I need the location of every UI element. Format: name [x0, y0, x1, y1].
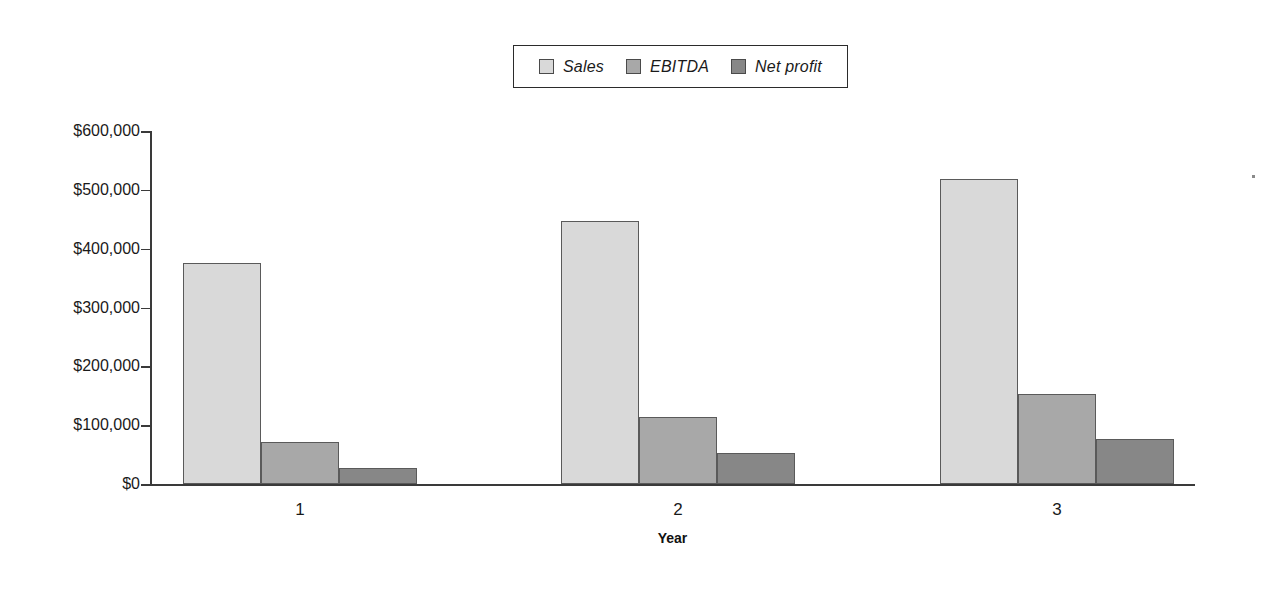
bar-group-container [150, 131, 1195, 484]
legend-item-sales: Sales [539, 58, 604, 76]
y-tick-mark [141, 308, 150, 310]
bar-sales-year-2 [561, 221, 639, 484]
y-tick-mark [141, 425, 150, 427]
y-tick-label: $600,000 [10, 122, 140, 140]
legend-label-net-profit: Net profit [755, 58, 822, 76]
scan-speck [1252, 175, 1255, 178]
x-axis-title: Year [150, 530, 1195, 546]
legend-item-net-profit: Net profit [731, 58, 822, 76]
plot-area: $0$100,000$200,000$300,000$400,000$500,0… [150, 131, 1195, 484]
x-tick-label: 1 [295, 500, 304, 520]
legend-label-ebitda: EBITDA [650, 58, 709, 76]
legend-label-sales: Sales [563, 58, 604, 76]
bar-net-profit-year-3 [1096, 439, 1174, 484]
y-tick-label: $500,000 [10, 181, 140, 199]
y-tick-mark [141, 190, 150, 192]
bar-sales-year-1 [183, 263, 261, 484]
y-tick-label: $300,000 [10, 299, 140, 317]
bar-chart: Sales EBITDA Net profit $0$100,000$200,0… [0, 0, 1265, 589]
legend-swatch-sales-icon [539, 59, 554, 74]
chart-legend: Sales EBITDA Net profit [513, 45, 848, 88]
bar-sales-year-3 [940, 179, 1018, 484]
legend-item-ebitda: EBITDA [626, 58, 709, 76]
legend-swatch-ebitda-icon [626, 59, 641, 74]
y-tick-label: $0 [10, 475, 140, 493]
bar-ebitda-year-2 [639, 417, 717, 484]
bar-ebitda-year-1 [261, 442, 339, 484]
y-tick-mark [141, 484, 150, 486]
y-tick-mark [141, 366, 150, 368]
bar-net-profit-year-1 [339, 468, 417, 484]
y-tick-mark [141, 249, 150, 251]
y-tick-mark [141, 131, 150, 133]
x-axis-line [147, 484, 1195, 486]
legend-swatch-net-profit-icon [731, 59, 746, 74]
bar-net-profit-year-2 [717, 453, 795, 484]
y-tick-label: $100,000 [10, 416, 140, 434]
bar-ebitda-year-3 [1018, 394, 1096, 484]
y-tick-label: $400,000 [10, 240, 140, 258]
x-tick-label: 2 [673, 500, 682, 520]
y-tick-label: $200,000 [10, 357, 140, 375]
x-tick-label: 3 [1052, 500, 1061, 520]
